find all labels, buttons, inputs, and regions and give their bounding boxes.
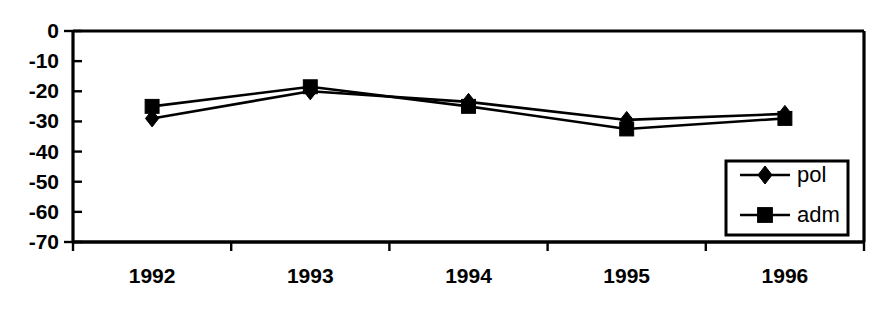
y-tick-label: -70	[29, 230, 59, 253]
x-axis-labels: 19921993199419951996	[129, 264, 809, 287]
data-point-adm-1996	[778, 111, 792, 125]
y-tick-label: -60	[29, 200, 59, 223]
x-tick-label: 1994	[445, 264, 492, 287]
data-point-adm-1995	[620, 122, 634, 136]
x-tick-label: 1993	[287, 264, 334, 287]
x-tick-label: 1996	[762, 264, 809, 287]
y-tick-label: -50	[29, 170, 59, 193]
data-point-adm-1993	[303, 80, 317, 94]
data-point-adm-1992	[145, 99, 159, 113]
y-tick-label: -30	[29, 109, 59, 132]
chart-legend: poladm	[726, 161, 848, 235]
legend-label-adm: adm	[797, 202, 840, 227]
data-series	[145, 80, 792, 136]
y-tick-label: -40	[29, 140, 59, 163]
chart-canvas: 0-10-20-30-40-50-60-70 19921993199419951…	[0, 0, 880, 316]
y-tick-label: -20	[29, 79, 59, 102]
line-chart: 0-10-20-30-40-50-60-70 19921993199419951…	[0, 0, 880, 316]
y-tick-label: 0	[47, 19, 59, 42]
data-point-adm-1994	[462, 99, 476, 113]
legend-marker-adm	[758, 208, 773, 223]
y-tick-label: -10	[29, 49, 59, 72]
legend-label-pol: pol	[797, 162, 826, 187]
x-tick-label: 1995	[603, 264, 650, 287]
x-tick-label: 1992	[129, 264, 176, 287]
